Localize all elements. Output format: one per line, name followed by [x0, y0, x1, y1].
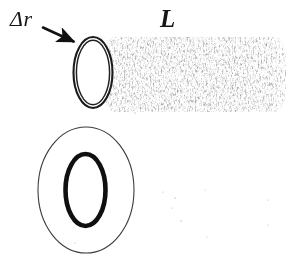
tube-length-label: L: [160, 6, 175, 31]
thickness-annotation-arrow: [43, 28, 74, 42]
tube-perspective-view: [43, 28, 286, 113]
tube-body-texture: [104, 37, 286, 112]
figure-canvas: [0, 0, 299, 270]
wall-thickness-label: Δr: [10, 8, 32, 30]
tube-cross-section-view: [38, 127, 134, 253]
tube-geometry-figure: Δr L: [0, 0, 299, 270]
tube-mouth-annulus: [74, 37, 113, 108]
cross-section-inner-ellipse: [66, 154, 106, 226]
